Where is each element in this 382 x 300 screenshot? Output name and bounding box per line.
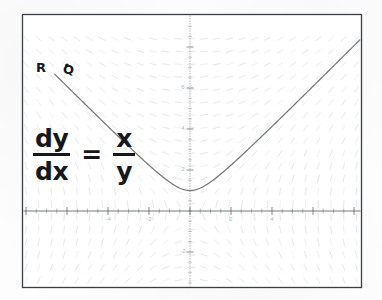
point-label-Q: Q: [63, 62, 74, 77]
equation-rhs-bar: [113, 153, 135, 156]
equation-lhs-bar: [33, 153, 70, 156]
x-axis-tick-label: 2: [229, 216, 232, 222]
equation-right-fraction: x y: [113, 126, 135, 184]
y-axis-tick-label: 6: [181, 84, 184, 90]
y-axis-tick-label: 2: [181, 166, 184, 172]
differential-equation: dy dx = x y: [33, 126, 135, 184]
equation-lhs-numerator: dy: [33, 126, 70, 151]
equation-rhs-numerator: x: [114, 126, 134, 151]
equation-lhs-denominator: dx: [33, 159, 70, 184]
figure-page: -4-224246-2 dy dx = x y R Q: [0, 0, 382, 300]
equation-left-fraction: dy dx: [33, 126, 70, 184]
equation-rhs-denominator: y: [114, 159, 134, 184]
x-axis-tick-label: 4: [270, 216, 273, 222]
y-axis-tick-label: -2: [180, 248, 185, 254]
equation-equals-sign: =: [81, 140, 102, 171]
x-axis-tick-label: -2: [146, 216, 151, 222]
x-axis-tick-label: -4: [105, 216, 110, 222]
y-axis-tick-label: 4: [181, 125, 184, 131]
point-label-R: R: [36, 60, 46, 75]
